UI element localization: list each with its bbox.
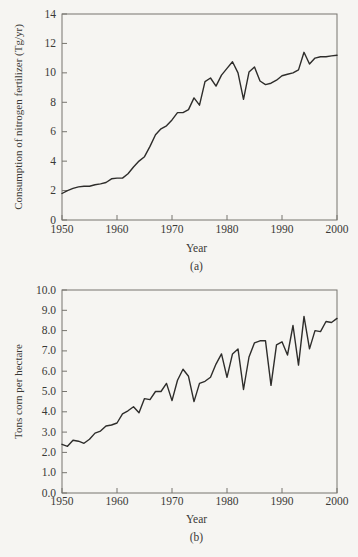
- x-tick-label: 2000: [326, 223, 349, 235]
- y-tick-label: 9.0: [42, 304, 57, 316]
- y-tick-label: 2: [50, 184, 56, 196]
- plot-frame: [62, 14, 337, 220]
- data-line: [62, 316, 337, 446]
- x-tick-label: 1960: [106, 223, 129, 235]
- x-tick-label: 1990: [271, 495, 294, 507]
- y-tick-label: 12: [45, 37, 57, 49]
- x-tick-label: 2000: [326, 495, 349, 507]
- x-tick-label: 1980: [216, 495, 239, 507]
- x-tick-label: 1980: [216, 223, 239, 235]
- x-axis-title: Year: [186, 513, 207, 525]
- y-axis-title: Consumption of nitrogen fertilizer (Tg/y…: [12, 24, 25, 210]
- x-tick-label: 1990: [271, 223, 294, 235]
- x-axis-title: Year: [186, 242, 207, 254]
- y-tick-label: 7.0: [42, 344, 57, 356]
- y-tick-label: 4: [50, 155, 56, 167]
- textbook-figure-page: 02468101214195019601970198019902000Consu…: [0, 0, 358, 557]
- chart-a-figure: 02468101214195019601970198019902000Consu…: [0, 0, 358, 278]
- x-tick-label: 1970: [161, 223, 184, 235]
- corn-yield-chart: 0.01.02.03.04.05.06.07.08.09.010.0195019…: [0, 278, 358, 557]
- chart-caption: (a): [190, 260, 203, 273]
- y-tick-label: 4.0: [42, 405, 57, 417]
- y-tick-label: 1.0: [42, 466, 57, 478]
- x-tick-label: 1950: [51, 495, 74, 507]
- nitrogen-fertilizer-consumption-chart: 02468101214195019601970198019902000Consu…: [0, 0, 358, 278]
- plot-frame: [62, 290, 337, 493]
- x-tick-label: 1950: [51, 223, 74, 235]
- y-tick-label: 3.0: [42, 426, 57, 438]
- chart-caption: (b): [190, 531, 204, 544]
- y-tick-label: 10.0: [36, 284, 56, 296]
- y-tick-label: 8.0: [42, 324, 57, 336]
- chart-b-figure: 0.01.02.03.04.05.06.07.08.09.010.0195019…: [0, 278, 358, 557]
- y-tick-label: 14: [45, 8, 57, 20]
- y-tick-label: 6: [50, 125, 56, 137]
- y-tick-label: 10: [45, 66, 57, 78]
- y-tick-label: 5.0: [42, 385, 57, 397]
- y-tick-label: 6.0: [42, 365, 57, 377]
- x-tick-label: 1970: [161, 495, 184, 507]
- y-axis-title: Tons corn per hectare: [12, 344, 24, 439]
- y-tick-label: 8: [50, 96, 56, 108]
- x-tick-label: 1960: [106, 495, 129, 507]
- data-line: [62, 52, 337, 193]
- y-tick-label: 2.0: [42, 446, 57, 458]
